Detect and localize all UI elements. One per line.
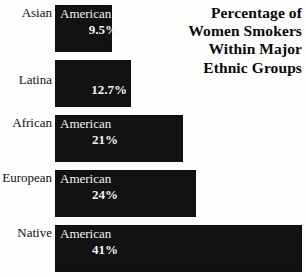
bar-african: American 21% — [55, 115, 183, 162]
bar-row-native: Native American 41% — [0, 225, 306, 272]
bar-latina: 12.7% — [55, 60, 131, 107]
bar-asian: American 9.5% — [55, 5, 112, 52]
bar-series-word-native: American — [60, 226, 111, 241]
bar-category-label-latina: Latina — [0, 72, 52, 87]
bar-european: American 24% — [55, 170, 196, 217]
bar-row-asian: Asian American 9.5% — [0, 5, 306, 52]
bar-row-european: European American 24% — [0, 170, 306, 217]
bar-series-word-african: American — [60, 116, 111, 131]
bar-value-native: 41% — [60, 242, 118, 257]
bar-category-label-asian: Asian — [0, 5, 52, 20]
plot-area: Asian American 9.5% Latina 12.7% African… — [0, 0, 306, 277]
bar-row-latina: Latina 12.7% — [0, 60, 306, 107]
bar-value-african: 21% — [60, 132, 118, 147]
bar-value-latina: 12.7% — [65, 82, 127, 97]
bar-native: American 41% — [55, 225, 302, 272]
bar-value-asian: 9.5% — [60, 22, 118, 37]
bar-series-word-asian: American — [60, 6, 111, 21]
bar-series-word-european: American — [60, 171, 111, 186]
bar-category-label-european: European — [0, 170, 52, 185]
bar-row-african: African American 21% — [0, 115, 306, 162]
bar-category-label-african: African — [0, 115, 52, 130]
bar-chart-figure: Percentage of Women Smokers Within Major… — [0, 0, 306, 277]
bar-value-european: 24% — [60, 187, 118, 202]
bar-category-label-native: Native — [0, 225, 52, 240]
